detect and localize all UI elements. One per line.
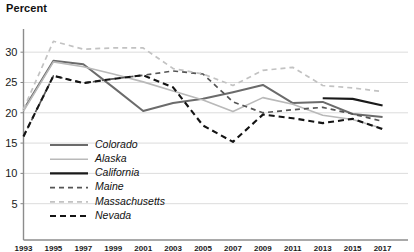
chart-legend: ColoradoAlaskaCaliforniaMaineMassachuset… <box>50 138 166 221</box>
legend-label-california[interactable]: California <box>95 166 140 178</box>
legend-label-nevada[interactable]: Nevada <box>95 209 131 221</box>
y-axis-tick-label: 15 <box>5 137 17 149</box>
legend-label-maine[interactable]: Maine <box>95 180 124 192</box>
chart-container: Percent 51015202530 19931995199719992001… <box>0 0 414 252</box>
x-axis-tick-labels: 1993199519971999200120032005200720092011… <box>15 244 392 252</box>
series-line-california <box>323 98 383 105</box>
x-axis-tick-label: 2005 <box>194 244 212 252</box>
series-line-colorado <box>24 61 383 117</box>
x-axis-tick-label: 2011 <box>284 244 302 252</box>
series-line-nevada <box>24 75 383 142</box>
y-axis-tick-label: 25 <box>5 76 17 88</box>
axis-lines <box>24 29 409 240</box>
x-axis-tick-label: 2015 <box>344 244 362 252</box>
x-axis-tick-label: 2003 <box>164 244 182 252</box>
series-line-alaska <box>24 62 383 129</box>
y-axis-tick-label: 20 <box>5 107 17 119</box>
x-axis-tick-label: 2009 <box>254 244 272 252</box>
y-axis-tick-label: 30 <box>5 46 17 58</box>
line-chart-plot: 51015202530 1993199519971999200120032005… <box>0 0 414 252</box>
legend-label-massachusetts[interactable]: Massachusetts <box>95 195 166 207</box>
gridlines <box>24 52 409 204</box>
x-axis-tick-label: 2013 <box>314 244 332 252</box>
y-axis-tick-label: 10 <box>5 167 17 179</box>
data-series-group <box>24 41 383 142</box>
legend-label-colorado[interactable]: Colorado <box>95 138 138 150</box>
x-axis-tick-label: 1997 <box>74 244 92 252</box>
x-axis-tick-label: 2007 <box>224 244 242 252</box>
x-axis-tick-label: 2001 <box>134 244 152 252</box>
y-axis-tick-labels: 51015202530 <box>5 46 23 210</box>
x-axis-tick-label: 1999 <box>104 244 122 252</box>
x-axis-tick-label: 2017 <box>374 244 392 252</box>
x-axis-tick-label: 1995 <box>45 244 63 252</box>
x-axis-tick-label: 1993 <box>15 244 33 252</box>
legend-label-alaska[interactable]: Alaska <box>94 152 127 164</box>
y-axis-tick-label: 5 <box>11 198 17 210</box>
